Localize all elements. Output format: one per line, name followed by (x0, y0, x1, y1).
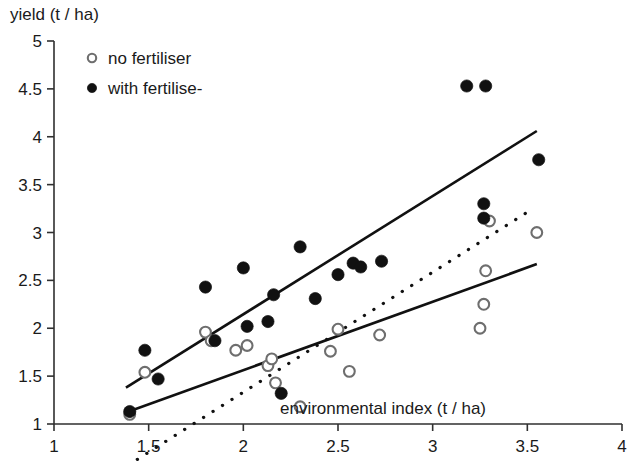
y-tick-label: 4 (33, 128, 42, 147)
y-tick-label: 1.5 (18, 367, 42, 386)
y-tick-label: 3.5 (18, 176, 42, 195)
data-point-no-fertiliser (139, 367, 150, 378)
y-tick-label: 2 (33, 319, 42, 338)
data-point-with-fertiliser (139, 344, 151, 356)
x-tick-label: 1 (49, 437, 58, 456)
x-tick-label: 2.5 (326, 437, 350, 456)
y-tick-label: 4.5 (18, 80, 42, 99)
data-point-no-fertiliser (531, 227, 542, 238)
data-point-with-fertiliser (480, 80, 492, 92)
data-point-no-fertiliser (478, 299, 489, 310)
y-axis-title: yield (t / ha) (10, 5, 99, 24)
y-tick-label: 5 (33, 32, 42, 51)
data-point-with-fertiliser (241, 320, 253, 332)
x-tick-label: 3.5 (516, 437, 540, 456)
data-point-with-fertiliser (478, 198, 490, 210)
legend-label-with-fertiliser: with fertilise- (107, 79, 202, 98)
data-point-with-fertiliser (275, 387, 287, 399)
data-point-no-fertiliser (325, 346, 336, 357)
data-point-no-fertiliser (344, 366, 355, 377)
y-tick-label: 2.5 (18, 271, 42, 290)
data-point-with-fertiliser (375, 255, 387, 267)
y-tick-label: 3 (33, 224, 42, 243)
data-point-with-fertiliser (262, 315, 274, 327)
regression-line (126, 264, 537, 412)
data-point-with-fertiliser (533, 154, 545, 166)
data-point-with-fertiliser (309, 292, 321, 304)
data-point-no-fertiliser (266, 353, 277, 364)
data-point-no-fertiliser (230, 345, 241, 356)
x-tick-label: 4 (617, 437, 626, 456)
x-axis-title: environmental index (t / ha) (280, 399, 486, 418)
data-point-no-fertiliser (270, 377, 281, 388)
data-point-with-fertiliser (478, 212, 490, 224)
data-point-with-fertiliser (124, 405, 136, 417)
data-point-with-fertiliser (461, 80, 473, 92)
x-tick-label: 3 (428, 437, 437, 456)
data-point-no-fertiliser (480, 265, 491, 276)
data-point-with-fertiliser (268, 289, 280, 301)
chart-container: 11.522.533.544.5511.522.533.54 yield (t … (0, 0, 633, 469)
data-point-with-fertiliser (294, 241, 306, 253)
y-tick-label: 1 (33, 415, 42, 434)
data-point-no-fertiliser (242, 340, 253, 351)
data-point-with-fertiliser (152, 373, 164, 385)
data-point-no-fertiliser (333, 324, 344, 335)
data-point-no-fertiliser (374, 330, 385, 341)
legend-marker-with-fertiliser (87, 83, 96, 92)
data-point-with-fertiliser (237, 262, 249, 274)
data-point-with-fertiliser (332, 269, 344, 281)
data-point-with-fertiliser (199, 281, 211, 293)
legend-label-no-fertiliser: no fertiliser (108, 49, 191, 68)
legend-marker-no-fertiliser (88, 54, 96, 62)
data-points (124, 80, 545, 420)
data-point-with-fertiliser (209, 335, 221, 347)
scatter-plot: 11.522.533.544.5511.522.533.54 yield (t … (0, 0, 633, 469)
x-tick-label: 2 (239, 437, 248, 456)
data-point-no-fertiliser (475, 323, 486, 334)
legend: no fertiliser with fertilise- (87, 49, 202, 98)
data-point-with-fertiliser (355, 261, 367, 273)
